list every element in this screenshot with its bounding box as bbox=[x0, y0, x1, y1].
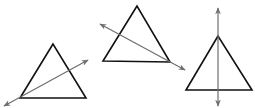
figure-2 bbox=[100, 6, 185, 70]
triangle-3 bbox=[186, 36, 252, 90]
triangle-2 bbox=[103, 6, 170, 62]
triangle-1 bbox=[20, 44, 86, 98]
line-arrow-1 bbox=[4, 60, 88, 106]
line-arrow-2 bbox=[100, 24, 185, 70]
figure-3 bbox=[186, 8, 252, 106]
figure-1 bbox=[4, 44, 88, 106]
diagram-canvas bbox=[0, 0, 255, 108]
